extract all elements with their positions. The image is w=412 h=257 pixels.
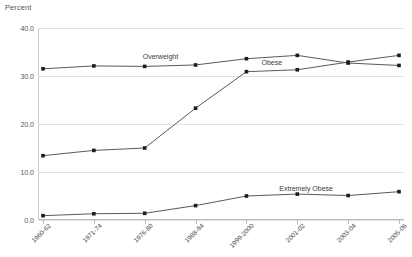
data-point-marker xyxy=(397,64,401,68)
x-tick-label: 1976-80 xyxy=(132,222,154,244)
series-annotation-obese: Obese xyxy=(262,59,283,66)
x-tick-label: 1971-74 xyxy=(81,222,103,244)
data-point-marker xyxy=(41,67,45,71)
data-point-marker xyxy=(295,192,299,196)
data-point-marker xyxy=(41,214,45,218)
y-tick-label: 20.0 xyxy=(20,121,34,128)
data-point-marker xyxy=(92,149,96,153)
y-tick-label: 10.0 xyxy=(20,169,34,176)
data-point-marker xyxy=(295,68,299,72)
y-tick-label: 0.0 xyxy=(24,217,34,224)
data-point-marker xyxy=(397,190,401,194)
x-tick-label: 1960-62 xyxy=(30,222,52,244)
data-point-marker xyxy=(245,70,249,74)
x-tick-label: 2003-04 xyxy=(335,222,357,244)
data-point-marker xyxy=(194,204,198,208)
data-point-marker xyxy=(194,106,198,110)
series-line-obese xyxy=(43,55,399,155)
data-point-marker xyxy=(346,60,350,64)
data-point-marker xyxy=(245,57,249,61)
y-tick-label: 30.0 xyxy=(20,73,34,80)
series-annotation-extremely-obese: Extremely Obese xyxy=(279,185,333,192)
y-tick-label: 40.0 xyxy=(20,25,34,32)
x-axis-tick-labels: 1960-621971-741976-801988-941999-2000200… xyxy=(38,222,404,257)
data-point-marker xyxy=(92,212,96,216)
chart-container: Percent 0.010.020.030.040.0 1960-621971-… xyxy=(0,0,412,257)
series-annotation-overweight: Overweight xyxy=(143,53,178,60)
series-lines-group xyxy=(38,28,404,220)
data-point-marker xyxy=(41,154,45,158)
y-axis-title: Percent xyxy=(5,3,32,12)
x-tick-label: 2001-02 xyxy=(284,222,306,244)
x-tick-label: 1999-2000 xyxy=(228,222,255,249)
data-point-marker xyxy=(346,194,350,198)
series-line-extremely-obese xyxy=(43,192,399,216)
data-point-marker xyxy=(143,146,147,150)
x-tick-label: 1988-94 xyxy=(183,222,205,244)
data-point-marker xyxy=(143,211,147,215)
data-point-marker xyxy=(397,54,401,58)
x-tick-label: 2005-06 xyxy=(386,222,408,244)
data-point-marker xyxy=(245,194,249,198)
data-point-marker xyxy=(194,63,198,67)
data-point-marker xyxy=(143,65,147,69)
plot-area xyxy=(38,28,404,220)
y-axis-tick-labels: 0.010.020.030.040.0 xyxy=(0,28,36,220)
data-point-marker xyxy=(295,54,299,58)
data-point-marker xyxy=(92,64,96,68)
